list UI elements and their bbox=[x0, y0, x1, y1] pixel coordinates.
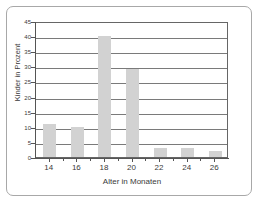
x-axis-tick bbox=[76, 159, 77, 162]
bar-series bbox=[36, 23, 227, 157]
y-axis-tick-label: 5 bbox=[17, 140, 31, 146]
bar bbox=[154, 148, 167, 157]
x-axis-minor-tick bbox=[118, 159, 119, 161]
plot-area bbox=[35, 22, 228, 158]
y-axis-tick bbox=[31, 82, 35, 83]
bar bbox=[181, 148, 194, 157]
y-axis-tick bbox=[31, 67, 35, 68]
y-axis-tick-label: 0 bbox=[17, 155, 31, 161]
x-axis-minor-tick bbox=[173, 159, 174, 161]
x-axis-tick bbox=[104, 159, 105, 162]
y-axis-tick bbox=[31, 22, 35, 23]
x-axis-minor-tick bbox=[90, 159, 91, 161]
x-axis-tick bbox=[214, 159, 215, 162]
x-axis-minor-tick bbox=[63, 159, 64, 161]
y-axis-tick bbox=[31, 113, 35, 114]
y-axis-title: Kinder in Prozent bbox=[13, 18, 22, 128]
y-axis-tick bbox=[31, 98, 35, 99]
bar bbox=[71, 127, 84, 157]
x-axis-tick-label: 24 bbox=[177, 163, 197, 172]
bar bbox=[209, 151, 222, 157]
bar bbox=[98, 36, 111, 157]
y-axis-tick bbox=[31, 37, 35, 38]
bar bbox=[126, 69, 139, 157]
chart-figure: 051015202530354045 Kinder in Prozent 141… bbox=[0, 0, 260, 204]
x-axis-tick bbox=[159, 159, 160, 162]
x-axis-tick bbox=[187, 159, 188, 162]
x-axis-tick-label: 20 bbox=[122, 163, 142, 172]
y-axis-tick bbox=[31, 143, 35, 144]
bar bbox=[43, 124, 56, 157]
x-axis-tick-label: 16 bbox=[66, 163, 86, 172]
x-axis-tick bbox=[132, 159, 133, 162]
x-axis-tick-label: 18 bbox=[94, 163, 114, 172]
y-axis-line bbox=[35, 22, 36, 159]
x-axis-title: Alter in Monaten bbox=[35, 177, 229, 186]
y-axis-tick bbox=[31, 52, 35, 53]
x-axis-tick-label: 22 bbox=[149, 163, 169, 172]
x-axis-minor-tick bbox=[200, 159, 201, 161]
x-axis-tick-label: 14 bbox=[39, 163, 59, 172]
x-axis-minor-tick bbox=[145, 159, 146, 161]
x-axis-tick bbox=[49, 159, 50, 162]
x-axis-tick-label: 26 bbox=[204, 163, 224, 172]
y-axis-tick bbox=[31, 128, 35, 129]
